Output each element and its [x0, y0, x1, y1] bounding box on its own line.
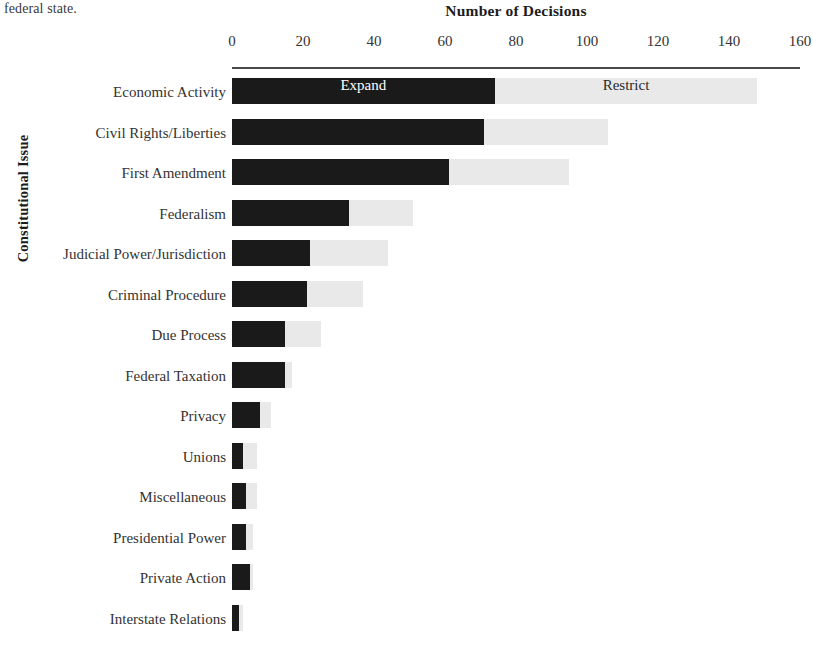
bar-segment-expand — [232, 321, 285, 347]
bar-track — [232, 315, 800, 356]
category-label: First Amendment — [121, 153, 226, 194]
chart-row: Interstate Relations — [0, 599, 813, 640]
category-label: Interstate Relations — [110, 599, 226, 640]
x-tick-label: 100 — [557, 33, 617, 50]
bar-segment-restrict — [260, 402, 271, 428]
bar-segment-restrict — [285, 321, 321, 347]
category-label: Due Process — [151, 315, 226, 356]
bar-segment-expand — [232, 159, 449, 185]
bar-segment-restrict — [449, 159, 570, 185]
bar-track: ExpandRestrict — [232, 72, 800, 113]
x-axis-tick-labels: 020406080100120140160 — [0, 33, 813, 55]
bar-track — [232, 518, 800, 559]
x-tick-label: 0 — [202, 33, 262, 50]
bar-segment-restrict — [307, 281, 364, 307]
bar-segment-restrict — [349, 200, 413, 226]
chart-row: First Amendment — [0, 153, 813, 194]
category-label: Civil Rights/Liberties — [96, 113, 226, 154]
category-label: Unions — [183, 437, 226, 478]
bar-segment-expand — [232, 443, 243, 469]
bar-segment-expand — [232, 119, 484, 145]
series-label-expand: Expand — [232, 72, 495, 98]
x-tick-label: 80 — [486, 33, 546, 50]
category-label: Presidential Power — [113, 518, 226, 559]
bar-segment-expand — [232, 483, 246, 509]
bar-track — [232, 194, 800, 235]
category-label: Federal Taxation — [125, 356, 226, 397]
bar-segment-restrict — [246, 524, 253, 550]
bar-track — [232, 396, 800, 437]
x-axis-line — [232, 67, 800, 69]
bar-segment-restrict — [246, 483, 257, 509]
bar-segment-expand — [232, 281, 307, 307]
category-label: Economic Activity — [113, 72, 226, 113]
bar-track — [232, 477, 800, 518]
chart-row: Judicial Power/Jurisdiction — [0, 234, 813, 275]
bar-segment-expand — [232, 605, 239, 631]
bar-track — [232, 234, 800, 275]
bar-track — [232, 356, 800, 397]
chart-row: Privacy — [0, 396, 813, 437]
x-tick-label: 40 — [344, 33, 404, 50]
bar-track — [232, 153, 800, 194]
x-tick-label: 120 — [628, 33, 688, 50]
category-label: Miscellaneous — [139, 477, 226, 518]
bar-segment-restrict — [250, 564, 254, 590]
chart-row: Civil Rights/Liberties — [0, 113, 813, 154]
chart-row: Due Process — [0, 315, 813, 356]
chart-row: Presidential Power — [0, 518, 813, 559]
chart-row: Unions — [0, 437, 813, 478]
bar-track — [232, 113, 800, 154]
bar-track — [232, 599, 800, 640]
category-label: Privacy — [180, 396, 226, 437]
bar-track — [232, 558, 800, 599]
chart-row: Criminal Procedure — [0, 275, 813, 316]
category-label: Private Action — [140, 558, 226, 599]
bar-segment-expand — [232, 402, 260, 428]
chart-row: Private Action — [0, 558, 813, 599]
bar-segment-restrict — [285, 362, 292, 388]
bar-track — [232, 275, 800, 316]
chart-plot-area: Economic ActivityExpandRestrictCivil Rig… — [0, 72, 813, 639]
bar-segment-restrict — [243, 443, 257, 469]
chart-title: Number of Decisions — [232, 2, 800, 20]
chart-row: Federal Taxation — [0, 356, 813, 397]
x-tick-label: 160 — [770, 33, 813, 50]
category-label: Criminal Procedure — [108, 275, 226, 316]
bar-segment-expand — [232, 240, 310, 266]
chart-row: Federalism — [0, 194, 813, 235]
bar-segment-restrict — [484, 119, 608, 145]
stacked-bar-chart: Number of Decisions Constitutional Issue… — [0, 0, 813, 666]
bar-segment-expand — [232, 564, 250, 590]
bar-segment-expand — [232, 524, 246, 550]
category-label: Judicial Power/Jurisdiction — [63, 234, 226, 275]
chart-row: Economic ActivityExpandRestrict — [0, 72, 813, 113]
bar-segment-expand — [232, 200, 349, 226]
chart-row: Miscellaneous — [0, 477, 813, 518]
x-tick-label: 20 — [273, 33, 333, 50]
bar-segment-restrict — [239, 605, 243, 631]
bar-segment-restrict — [310, 240, 388, 266]
series-label-restrict: Restrict — [495, 72, 758, 98]
x-tick-label: 140 — [699, 33, 759, 50]
bar-segment-expand — [232, 362, 285, 388]
category-label: Federalism — [159, 194, 226, 235]
bar-track — [232, 437, 800, 478]
x-tick-label: 60 — [415, 33, 475, 50]
